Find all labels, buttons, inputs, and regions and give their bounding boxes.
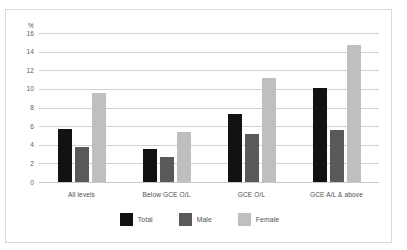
bar-group <box>124 33 209 182</box>
y-axis-tick-label: 12 <box>6 67 34 74</box>
legend-label: Female <box>256 216 279 224</box>
legend-label: Total <box>138 216 153 224</box>
bar-male[interactable] <box>330 130 344 182</box>
plot-area <box>39 33 379 182</box>
bar-male[interactable] <box>245 134 259 182</box>
y-axis-tick-label: 6 <box>6 123 34 130</box>
legend-item-female[interactable]: Female <box>238 213 279 226</box>
bar-total[interactable] <box>143 149 157 182</box>
bar-male[interactable] <box>160 157 174 182</box>
y-axis-tick-label: 10 <box>6 85 34 92</box>
bar-group <box>39 33 124 182</box>
legend-label: Male <box>197 216 212 224</box>
x-axis-category-label: Below GCE O/L <box>124 191 209 199</box>
y-axis-tick-label: 14 <box>6 48 34 55</box>
y-axis-tick-label: 2 <box>6 160 34 167</box>
x-axis-category-label: All levels <box>39 191 124 199</box>
bar-male[interactable] <box>75 147 89 182</box>
bar-total[interactable] <box>313 88 327 182</box>
y-axis-tick-label: 16 <box>6 30 34 37</box>
x-axis-line <box>39 182 379 183</box>
y-axis-tick-label: 4 <box>6 141 34 148</box>
bar-female[interactable] <box>177 132 191 182</box>
y-axis-unit-label: % <box>28 22 34 29</box>
bar-total[interactable] <box>58 129 72 182</box>
bar-female[interactable] <box>347 45 361 182</box>
x-axis-category-label: GCE A/L & above <box>294 191 379 199</box>
chart-legend: TotalMaleFemale <box>6 213 393 226</box>
x-axis-category-label: GCE O/L <box>209 191 294 199</box>
y-axis-tick-label: 0 <box>6 179 34 186</box>
y-axis-tick-label: 8 <box>6 104 34 111</box>
bar-group <box>209 33 294 182</box>
legend-item-total[interactable]: Total <box>120 213 153 226</box>
bar-female[interactable] <box>92 93 106 182</box>
legend-swatch-icon <box>120 213 133 226</box>
bar-female[interactable] <box>262 78 276 182</box>
legend-item-male[interactable]: Male <box>179 213 212 226</box>
legend-swatch-icon <box>238 213 251 226</box>
bar-group <box>294 33 379 182</box>
bar-total[interactable] <box>228 114 242 182</box>
chart-figure: % TotalMaleFemale 1614121086420All level… <box>5 9 392 243</box>
legend-swatch-icon <box>179 213 192 226</box>
